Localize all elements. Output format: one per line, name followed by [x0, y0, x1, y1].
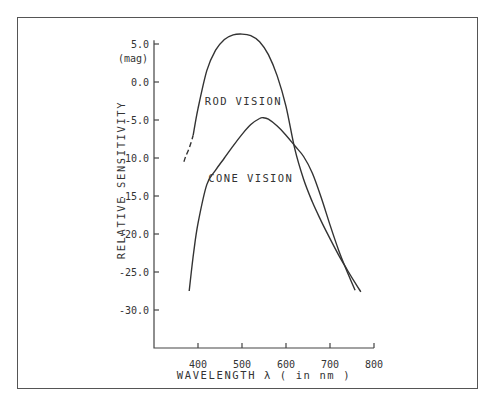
x-axis-ticks: 400500600700800 — [189, 343, 383, 370]
rod-vision-dashed-curve — [184, 135, 193, 162]
y-tick-label: 0.0 — [131, 77, 149, 88]
rod-vision-curve — [193, 34, 361, 292]
y-tick-label: 5.0 — [131, 39, 149, 50]
y-tick-label: -25.0 — [119, 267, 149, 278]
sensitivity-chart: 5.00.0-5.0-10.0-15.0-20.0-25.0-30.0 4005… — [0, 0, 497, 410]
axes — [154, 40, 374, 348]
x-axis-label: WAVELENGTH λ ( in nm ) — [177, 369, 351, 381]
rod-vision-label: ROD VISION — [205, 95, 282, 107]
cone-vision-curve — [189, 118, 355, 291]
y-axis-label: RELATIVE SENSITIVITY — [115, 101, 127, 259]
cone-vision-label: CONE VISION — [208, 172, 293, 184]
y-axis-unit: (mag) — [118, 53, 148, 64]
x-tick-label: 800 — [365, 359, 383, 370]
axis-lines — [154, 40, 374, 348]
plot-area: ROD VISIONCONE VISION — [184, 34, 361, 292]
y-tick-label: -30.0 — [119, 305, 149, 316]
y-tick-label: -5.0 — [125, 115, 149, 126]
